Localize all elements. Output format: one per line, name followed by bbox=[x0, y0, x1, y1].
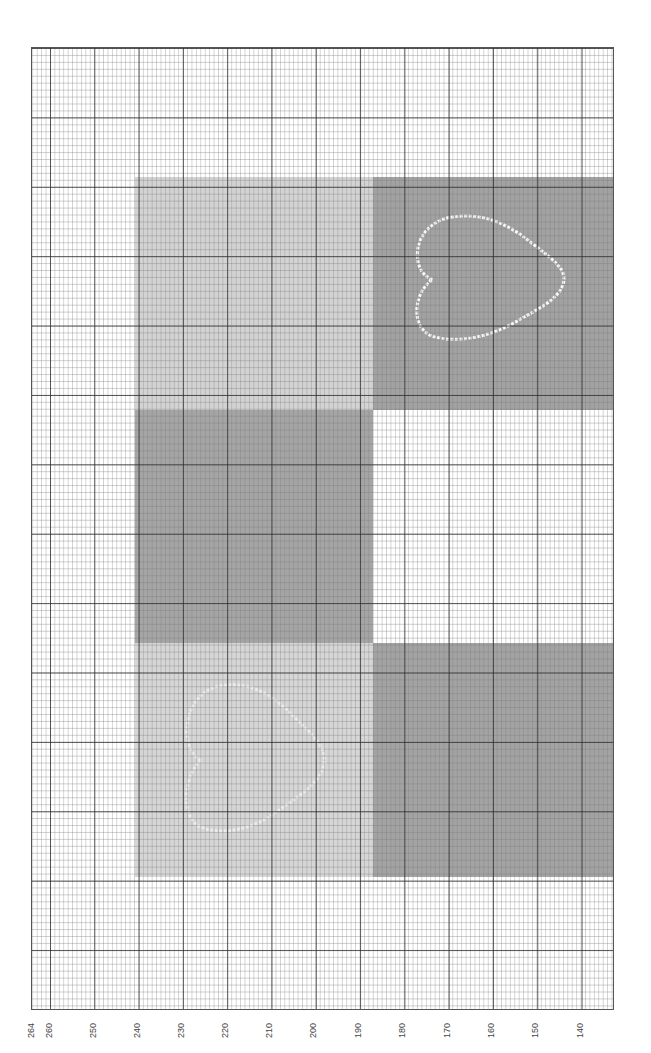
axis-tick-label: 230 bbox=[176, 1023, 186, 1038]
axis-tick-label: 180 bbox=[397, 1023, 407, 1038]
axis-tick-label: 190 bbox=[353, 1023, 363, 1038]
axis-tick-label: 160 bbox=[486, 1023, 496, 1038]
axis-tick-label: 150 bbox=[530, 1023, 540, 1038]
axis-tick-label: 140 bbox=[575, 1023, 585, 1038]
block-left-middle bbox=[135, 410, 373, 643]
axis-tick-label: 260 bbox=[44, 1023, 54, 1038]
axis-tick-label: 170 bbox=[442, 1023, 452, 1038]
block-left-top bbox=[135, 177, 373, 410]
heart-outline-dark-block-icon bbox=[410, 212, 570, 347]
axis-tick-label: 240 bbox=[132, 1023, 142, 1038]
block-right-middle bbox=[373, 410, 614, 643]
axis-tick-label: 210 bbox=[264, 1023, 274, 1038]
block-right-bottom bbox=[373, 643, 614, 877]
graph-paper-sheet: 2642602502402302202102001901801701601501… bbox=[0, 0, 651, 1053]
axis-tick-label: 220 bbox=[220, 1023, 230, 1038]
heart-outline-light-block-icon bbox=[180, 680, 330, 840]
axis-tick-label: 200 bbox=[308, 1023, 318, 1038]
axis-tick-label: 264 bbox=[26, 1023, 36, 1038]
axis-tick-label: 250 bbox=[88, 1023, 98, 1038]
